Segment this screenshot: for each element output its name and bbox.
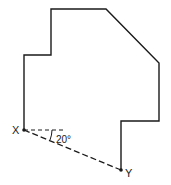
- angle-label: 20°: [56, 134, 71, 145]
- point-y-label: Y: [125, 167, 133, 179]
- point-x-marker: [22, 128, 26, 132]
- diagram-canvas: X Y 20°: [0, 0, 171, 185]
- xy-dashed-line: [24, 130, 121, 170]
- point-x-label: X: [12, 124, 20, 136]
- polygon-outline: [24, 9, 159, 170]
- angle-arc: [50, 130, 52, 140]
- point-y-marker: [119, 168, 123, 172]
